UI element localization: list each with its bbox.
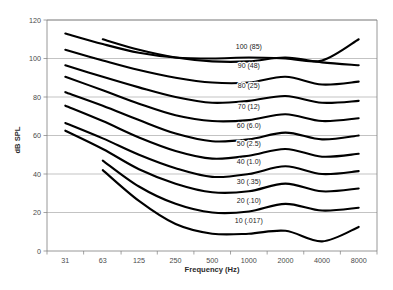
curve-label-20-phon: 20 (.10)	[237, 197, 261, 205]
x-tick-label-4000: 4000	[314, 256, 330, 265]
x-tick-label-63: 63	[99, 256, 107, 265]
curve-label-60-phon: 60 (6.0)	[237, 122, 261, 130]
y-tick-label-40: 40	[33, 170, 41, 179]
x-tick-label-250: 250	[170, 256, 182, 265]
curve-label-80-phon: 80 (25)	[238, 82, 260, 90]
y-axis-title: dB SPL	[13, 126, 22, 153]
curve-label-70-phon: 70 (12)	[238, 103, 260, 111]
chart-canvas: 020406080100120 316312525050010002000400…	[0, 0, 393, 290]
y-tick-label-20: 20	[33, 208, 41, 217]
x-tick-label-500: 500	[206, 256, 218, 265]
y-tick-label-0: 0	[37, 247, 41, 256]
y-tick-label-60: 60	[33, 131, 41, 140]
x-tick-label-1000: 1000	[241, 256, 257, 265]
x-tick-label-8000: 8000	[351, 256, 367, 265]
curve-label-50-phon: 50 (2.5)	[237, 140, 261, 148]
x-tick-label-125: 125	[133, 256, 145, 265]
x-tick-label-2000: 2000	[277, 256, 293, 265]
x-axis-ticks: 31631252505001000200040008000	[47, 251, 377, 265]
y-tick-label-100: 100	[29, 54, 41, 63]
curve-label-10-phon: 10 (.017)	[235, 217, 263, 225]
x-axis-title: Frequency (Hz)	[185, 265, 240, 274]
curve-label-40-phon: 40 (1.0)	[237, 158, 261, 166]
curve-label-30-phon: 30 (.35)	[237, 178, 261, 186]
equal-loudness-contour-chart: 020406080100120 316312525050010002000400…	[0, 0, 393, 290]
curve-label-90-phon: 90 (48)	[238, 62, 260, 70]
curve-label-100-phon: 100 (85)	[236, 43, 262, 51]
y-tick-label-80: 80	[33, 93, 41, 102]
y-tick-label-120: 120	[29, 16, 41, 25]
x-tick-label-31: 31	[61, 256, 69, 265]
y-axis-ticks: 020406080100120	[29, 16, 47, 256]
